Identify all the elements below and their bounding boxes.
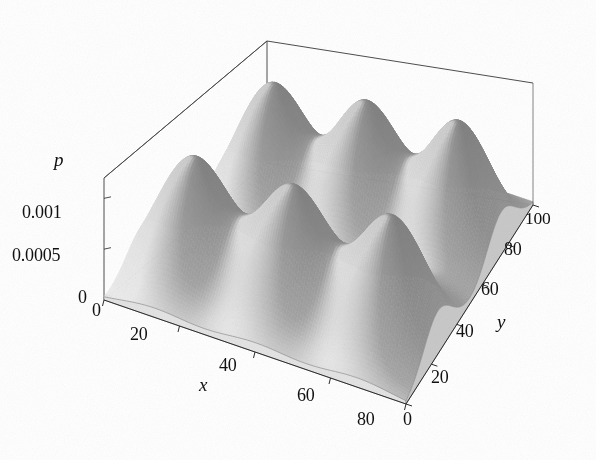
y-tick-100: 100 [525,210,551,228]
x-tick-0: 0 [92,301,101,319]
x-tick-80: 80 [357,410,375,428]
y-tick-80: 80 [504,240,522,258]
x-tick-40: 40 [219,356,237,374]
x-tick-60: 60 [297,386,315,404]
x-tick-20: 20 [130,325,148,343]
z-tick-0.001: 0.001 [22,203,62,221]
y-tick-60: 60 [481,280,499,298]
surface-plot-figure: p 0.001 0.0005 0 x 0 20 40 60 80 y 0 20 … [0,0,596,460]
y-axis-label: y [497,312,505,331]
z-axis-label: p [54,150,64,169]
z-tick-0: 0 [78,288,87,306]
x-axis-label: x [199,375,207,394]
y-tick-40: 40 [456,322,474,340]
z-tick-0.0005: 0.0005 [12,246,60,264]
y-tick-0: 0 [403,410,412,428]
y-tick-20: 20 [431,368,449,386]
